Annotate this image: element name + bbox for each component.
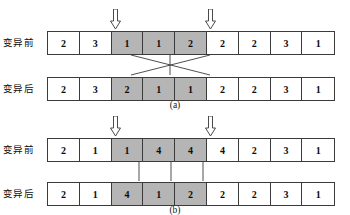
gene-cell[interactable]: 2 bbox=[48, 183, 80, 205]
gene-cell[interactable]: 3 bbox=[271, 139, 303, 161]
down-block-arrow-icon bbox=[205, 9, 216, 30]
gene-cell[interactable]: 2 bbox=[48, 139, 80, 161]
gene-cell[interactable]: 2 bbox=[48, 78, 80, 100]
gene-cell[interactable]: 1 bbox=[302, 32, 334, 54]
panel-b-marker-layer bbox=[0, 113, 350, 139]
panel-b-caption: (b) bbox=[0, 205, 350, 215]
down-block-arrow-icon bbox=[110, 9, 121, 30]
gene-cell[interactable]: 4 bbox=[112, 183, 144, 205]
gene-cell[interactable]: 1 bbox=[302, 139, 334, 161]
panel-a-connector-crossed bbox=[0, 54, 350, 76]
gene-cell[interactable]: 2 bbox=[207, 32, 239, 54]
gene-cell[interactable]: 2 bbox=[112, 78, 144, 100]
down-block-arrow-icon bbox=[205, 116, 216, 137]
gene-cell[interactable]: 1 bbox=[143, 183, 175, 205]
row-label-before: 变异前 bbox=[0, 30, 47, 56]
gene-cell[interactable]: 3 bbox=[271, 32, 303, 54]
gene-cell[interactable]: 2 bbox=[239, 183, 271, 205]
gene-cell[interactable]: 2 bbox=[239, 139, 271, 161]
panel-b-row-after: 变异后 2 1 4 1 2 2 2 3 1 bbox=[0, 181, 335, 207]
row-label-before: 变异前 bbox=[0, 137, 47, 163]
gene-cell[interactable]: 1 bbox=[302, 183, 334, 205]
gene-cell[interactable]: 1 bbox=[80, 183, 112, 205]
gene-cell[interactable]: 1 bbox=[302, 78, 334, 100]
gene-cell[interactable]: 3 bbox=[80, 78, 112, 100]
gene-cell[interactable]: 2 bbox=[207, 183, 239, 205]
gene-cell[interactable]: 2 bbox=[239, 78, 271, 100]
gene-cell[interactable]: 1 bbox=[112, 139, 144, 161]
gene-cell[interactable]: 2 bbox=[207, 78, 239, 100]
gene-cell[interactable]: 2 bbox=[175, 183, 207, 205]
gene-cell[interactable]: 3 bbox=[271, 78, 303, 100]
gene-cell[interactable]: 3 bbox=[80, 32, 112, 54]
panel-a-row-after: 变异后 2 3 2 1 1 2 2 3 1 bbox=[0, 76, 335, 102]
row-label-after: 变异后 bbox=[0, 76, 47, 102]
gene-cell[interactable]: 1 bbox=[80, 139, 112, 161]
gene-cell[interactable]: 4 bbox=[175, 139, 207, 161]
mutation-diagram: 变异前 2 3 1 1 2 2 2 3 1 变异后 2 bbox=[0, 0, 350, 215]
gene-cell[interactable]: 2 bbox=[239, 32, 271, 54]
gene-cell[interactable]: 4 bbox=[143, 139, 175, 161]
gene-cell[interactable]: 1 bbox=[112, 32, 144, 54]
panel-a-caption: (a) bbox=[0, 100, 350, 110]
gene-cell[interactable]: 1 bbox=[143, 78, 175, 100]
panel-b: 变异前 2 1 1 4 4 4 2 3 1 变异后 2 bbox=[0, 113, 350, 213]
panel-b-connector-vertical bbox=[0, 161, 350, 181]
row-label-after: 变异后 bbox=[0, 181, 47, 207]
panel-b-row-before: 变异前 2 1 1 4 4 4 2 3 1 bbox=[0, 137, 335, 163]
panel-a-marker-layer bbox=[0, 6, 350, 32]
panel-a-row-before: 变异前 2 3 1 1 2 2 2 3 1 bbox=[0, 30, 335, 56]
gene-cell[interactable]: 2 bbox=[48, 32, 80, 54]
gene-cell[interactable]: 2 bbox=[175, 32, 207, 54]
chromosome-grid-before: 2 3 1 1 2 2 2 3 1 bbox=[47, 31, 335, 55]
chromosome-grid-before: 2 1 1 4 4 4 2 3 1 bbox=[47, 138, 335, 162]
gene-cell[interactable]: 1 bbox=[143, 32, 175, 54]
gene-cell[interactable]: 3 bbox=[271, 183, 303, 205]
down-block-arrow-icon bbox=[110, 116, 121, 137]
gene-cell[interactable]: 4 bbox=[207, 139, 239, 161]
chromosome-grid-after: 2 1 4 1 2 2 2 3 1 bbox=[47, 182, 335, 206]
gene-cell[interactable]: 1 bbox=[175, 78, 207, 100]
panel-a: 变异前 2 3 1 1 2 2 2 3 1 变异后 2 bbox=[0, 6, 350, 109]
chromosome-grid-after: 2 3 2 1 1 2 2 3 1 bbox=[47, 77, 335, 101]
